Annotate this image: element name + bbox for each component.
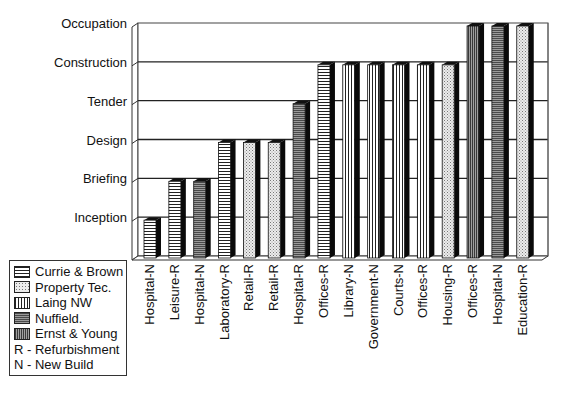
- bar: [517, 23, 534, 258]
- x-axis-label: Housing-R: [440, 264, 455, 325]
- legend: Currie & BrownProperty Tec.Laing NWNuffi…: [9, 260, 127, 376]
- bar: [318, 62, 335, 258]
- bar: [393, 62, 410, 258]
- legend-item: Ernst & Young: [14, 326, 126, 342]
- y-axis-label: Inception: [74, 210, 127, 225]
- x-axis-label: Hospital-N: [192, 264, 207, 325]
- bar: [194, 178, 211, 258]
- x-axis-label: Offices-R: [316, 264, 331, 318]
- x-axis-label: Leisure-R: [167, 264, 182, 320]
- legend-label: Currie & Brown: [35, 264, 123, 279]
- y-axis-label: Design: [87, 133, 127, 148]
- legend-swatch-icon: [14, 297, 30, 309]
- legend-label: Property Tec.: [35, 280, 111, 295]
- x-axis-label: Offices-R: [465, 264, 480, 318]
- x-axis-label: Hospital-N: [142, 264, 157, 325]
- bar: [492, 23, 509, 258]
- legend-swatch-icon: [14, 266, 30, 278]
- legend-swatch-icon: [14, 281, 30, 293]
- legend-label: Nuffield.: [35, 311, 82, 326]
- bar: [268, 140, 285, 259]
- x-axis-label: Laboratory-R: [217, 264, 232, 340]
- legend-label: Ernst & Young: [35, 326, 117, 341]
- legend-label: Laing NW: [35, 295, 92, 310]
- bar: [417, 62, 434, 258]
- legend-item: Currie & Brown: [14, 264, 126, 280]
- bar: [467, 23, 484, 258]
- y-axis-label: Construction: [54, 55, 127, 70]
- legend-swatch-icon: [14, 328, 30, 340]
- x-axis-label: Library-N: [341, 264, 356, 317]
- y-axis-labels: InceptionBriefingDesignTenderConstructio…: [54, 16, 128, 225]
- y-axis-label: Tender: [87, 94, 127, 109]
- y-axis-label: Occupation: [61, 16, 127, 31]
- bar: [243, 140, 260, 259]
- legend-note-refurbishment: R - Refurbishment: [14, 342, 126, 358]
- y-axis-label: Briefing: [83, 171, 127, 186]
- bar: [169, 178, 186, 258]
- x-axis-label: Education-R: [515, 264, 530, 336]
- x-axis-label: Hospital-N: [490, 264, 505, 325]
- bar: [219, 140, 236, 259]
- legend-item: Laing NW: [14, 295, 126, 311]
- legend-swatch-icon: [14, 312, 30, 324]
- x-axis-label: Retail-R: [241, 264, 256, 311]
- x-axis-label: Offices-R: [415, 264, 430, 318]
- legend-item: Nuffield.: [14, 311, 126, 327]
- x-axis-label: Retail-R: [266, 264, 281, 311]
- x-axis-label: Government-N: [366, 264, 381, 349]
- x-axis-labels: Hospital-NLeisure-RHospital-NLaboratory-…: [142, 264, 530, 349]
- bar: [442, 62, 459, 258]
- legend-note-new-build: N - New Build: [14, 357, 126, 373]
- bar: [368, 62, 385, 258]
- bar: [144, 217, 161, 258]
- legend-item: Property Tec.: [14, 280, 126, 296]
- x-axis-label: Courts-N: [391, 264, 406, 316]
- bar: [293, 101, 310, 258]
- bar: [343, 62, 360, 258]
- x-axis-label: Hospital-R: [291, 264, 306, 325]
